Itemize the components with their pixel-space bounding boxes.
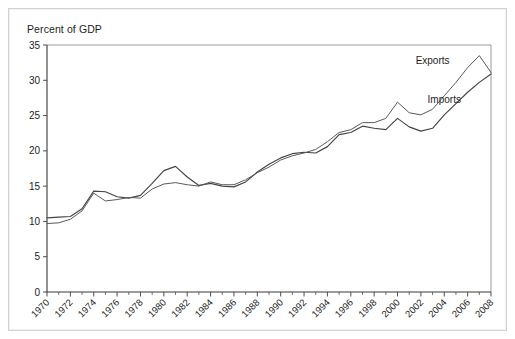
x-tick-label: 2004 bbox=[426, 297, 449, 320]
x-tick-label: 2006 bbox=[449, 297, 472, 320]
x-tick-label: 1986 bbox=[216, 297, 239, 320]
x-tick-label: 1974 bbox=[75, 297, 98, 320]
chart-plot-area: 05101520253035 1970197219741976197819801… bbox=[9, 9, 508, 332]
series-line-exports bbox=[47, 74, 491, 218]
x-tick-label: 2002 bbox=[403, 297, 426, 320]
x-tick-label: 1988 bbox=[239, 297, 262, 320]
x-tick-label: 1994 bbox=[309, 297, 332, 320]
x-tick-label: 2008 bbox=[473, 297, 496, 320]
x-tick-label: 1992 bbox=[286, 297, 309, 320]
x-tick-label: 1972 bbox=[52, 297, 75, 320]
y-tick-label: 30 bbox=[29, 75, 41, 86]
y-tick-label: 20 bbox=[29, 145, 41, 156]
plot-frame bbox=[47, 45, 491, 292]
x-tick-label: 1980 bbox=[146, 297, 169, 320]
y-tick-label: 35 bbox=[29, 40, 41, 51]
y-tick-label: 0 bbox=[34, 287, 40, 298]
x-tick-label: 1982 bbox=[169, 297, 192, 320]
x-tick-label: 1998 bbox=[356, 297, 379, 320]
y-tick-label: 5 bbox=[34, 251, 40, 262]
series-line-imports bbox=[47, 56, 491, 224]
series-label-group: ExportsImports bbox=[416, 55, 461, 105]
y-tick-label: 25 bbox=[29, 110, 41, 121]
x-axis: 1970197219741976197819801982198419861988… bbox=[29, 292, 496, 319]
line-chart-svg: 05101520253035 1970197219741976197819801… bbox=[9, 9, 508, 332]
x-tick-label: 1996 bbox=[332, 297, 355, 320]
x-tick-label: 2000 bbox=[379, 297, 402, 320]
x-tick-label: 1978 bbox=[122, 297, 145, 320]
x-tick-label: 1984 bbox=[192, 297, 215, 320]
x-tick-label: 1990 bbox=[262, 297, 285, 320]
data-series-group bbox=[47, 56, 491, 224]
y-axis: 05101520253035 bbox=[29, 40, 47, 298]
x-tick-label: 1976 bbox=[99, 297, 122, 320]
figure-panel: Percent of GDP 05101520253035 1970197219… bbox=[8, 8, 507, 331]
x-tick-label: 1970 bbox=[29, 297, 52, 320]
series-label-exports: Exports bbox=[416, 55, 450, 66]
y-tick-label: 10 bbox=[29, 216, 41, 227]
series-label-imports: Imports bbox=[428, 94, 461, 105]
y-tick-label: 15 bbox=[29, 181, 41, 192]
